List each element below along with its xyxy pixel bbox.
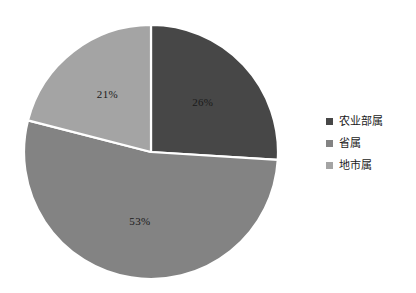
square-marker-icon <box>326 162 333 169</box>
square-marker-icon <box>326 140 333 147</box>
pie-slice[interactable] <box>151 25 278 160</box>
legend-item-2[interactable]: 地市属 <box>326 154 412 176</box>
chart-legend: 农业部属 省属 地市属 <box>326 110 412 176</box>
pie-plot-area: 26%53%21% <box>24 18 278 286</box>
pie-svg: 26%53%21% <box>24 18 278 286</box>
legend-item-label: 地市属 <box>339 160 372 171</box>
pie-data-label: 26% <box>192 96 213 108</box>
legend-item-0[interactable]: 农业部属 <box>326 110 412 132</box>
pie-data-label: 21% <box>97 88 118 100</box>
pie-data-label: 53% <box>129 215 150 227</box>
pie-chart: 26%53%21% 农业部属 省属 地市属 <box>0 0 416 293</box>
square-marker-icon <box>326 118 333 125</box>
legend-item-label: 农业部属 <box>339 116 383 127</box>
pie-slice-group <box>24 25 278 279</box>
legend-item-label: 省属 <box>339 138 361 149</box>
legend-item-1[interactable]: 省属 <box>326 132 412 154</box>
